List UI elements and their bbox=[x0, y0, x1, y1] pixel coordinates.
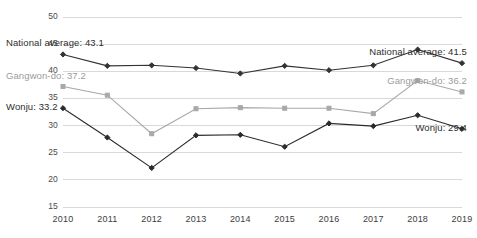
annotation-gangwon-do-right: Gangwon-do: 36.2 bbox=[387, 75, 467, 86]
series-wonju bbox=[60, 106, 464, 171]
x-tick-2014: 2014 bbox=[220, 214, 260, 224]
annotation-wonju-left: Wonju: 33.2 bbox=[6, 101, 58, 112]
annotation-wonju-right: Wonju: 29.4 bbox=[415, 122, 467, 133]
y-tick-20: 20 bbox=[36, 174, 58, 184]
x-tick-2012: 2012 bbox=[132, 214, 172, 224]
x-tick-2017: 2017 bbox=[353, 214, 393, 224]
x-tick-2013: 2013 bbox=[176, 214, 216, 224]
y-tick-50: 50 bbox=[36, 11, 58, 21]
x-tick-2019: 2019 bbox=[442, 214, 477, 224]
x-tick-2015: 2015 bbox=[265, 214, 305, 224]
x-tick-2011: 2011 bbox=[87, 214, 127, 224]
annotation-national-average-right: National average: 41.5 bbox=[369, 46, 467, 57]
y-tick-25: 25 bbox=[36, 147, 58, 157]
y-tick-15: 15 bbox=[36, 201, 58, 211]
series-gangwon-do bbox=[61, 79, 464, 136]
y-tick-30: 30 bbox=[36, 120, 58, 130]
annotation-national-average-left: National average: 43.1 bbox=[6, 37, 104, 48]
x-tick-2010: 2010 bbox=[43, 214, 83, 224]
x-tick-2018: 2018 bbox=[398, 214, 438, 224]
annotation-gangwon-do-left: Gangwon-do: 37.2 bbox=[6, 70, 86, 81]
x-tick-2016: 2016 bbox=[309, 214, 349, 224]
